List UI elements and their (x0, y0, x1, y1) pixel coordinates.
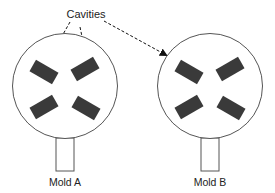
diagram-svg: Cavities Mold A (0, 0, 275, 193)
mold-b-label: Mold B (194, 176, 227, 188)
mold-b: Mold B (158, 34, 263, 189)
mold-a-stem (56, 138, 74, 171)
mold-a-label: Mold A (49, 176, 81, 188)
mold-b-stem (201, 138, 219, 171)
cavities-label: Cavities (66, 8, 106, 20)
mold-diagram: Cavities Mold A (0, 0, 275, 193)
mold-a-plate (13, 34, 118, 139)
mold-a: Mold A (13, 34, 118, 189)
arrow-to-mold-b (104, 21, 166, 55)
mold-b-plate (158, 34, 263, 139)
